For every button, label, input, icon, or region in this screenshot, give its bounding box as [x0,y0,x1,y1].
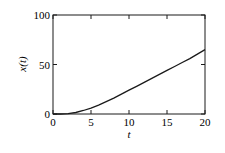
x-axis-label: t [127,128,131,140]
plot-frame [53,15,205,114]
y-axis-label: x(t) [16,56,29,73]
data-line [53,50,205,114]
x-tick-label: 0 [50,116,56,128]
y-tick-label: 50 [39,59,51,71]
x-tick-label: 10 [124,116,136,128]
x-tick-label: 20 [200,116,212,128]
x-tick-label: 5 [88,116,94,128]
line-chart: 05101520 050100 t x(t) [0,0,225,153]
y-tick-label: 100 [34,9,51,21]
y-tick-labels: 050100 [34,9,51,120]
axis-ticks [53,15,205,114]
y-tick-label: 0 [45,108,51,120]
x-tick-labels: 05101520 [50,116,211,128]
x-tick-label: 15 [162,116,174,128]
